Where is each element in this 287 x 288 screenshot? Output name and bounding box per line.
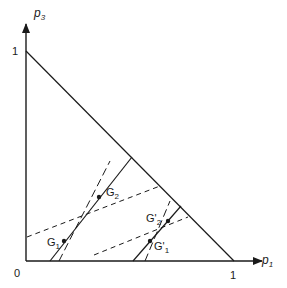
- label-g2-prime: G'2: [146, 212, 162, 227]
- label-g1: G1: [47, 236, 61, 251]
- point-g2: [97, 195, 101, 199]
- x-axis-tick-1: 1: [230, 269, 236, 281]
- label-g2: G2: [106, 186, 120, 201]
- origin-label: 0: [14, 267, 20, 279]
- hypotenuse-line: [26, 51, 234, 261]
- point-g1-prime: [148, 239, 152, 243]
- label-g1-prime: G'1: [154, 240, 170, 255]
- point-g2-prime: [166, 219, 170, 223]
- solid-indifference-line-1: [50, 157, 132, 261]
- long-dash-line-1: [59, 161, 110, 261]
- solid-indifference-line-2: [133, 206, 181, 261]
- triangle-diagram: p3 1 p1 1 0 G2 G1 G'2 G'1: [0, 0, 287, 288]
- y-axis-tick-1: 1: [12, 45, 18, 57]
- short-dash-line-lower: [94, 217, 188, 255]
- y-axis-label: p3: [33, 6, 46, 22]
- point-g1: [62, 239, 66, 243]
- x-axis-label: p1: [261, 253, 273, 269]
